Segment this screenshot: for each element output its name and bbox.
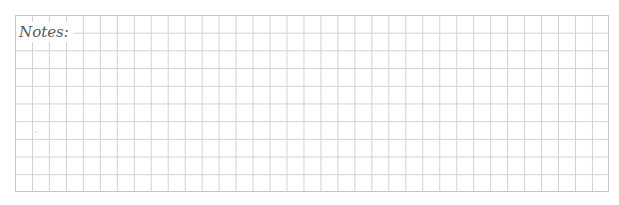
paper-speck: [35, 131, 37, 133]
notes-label: Notes:: [17, 22, 73, 42]
notes-grid-area: [15, 15, 609, 192]
